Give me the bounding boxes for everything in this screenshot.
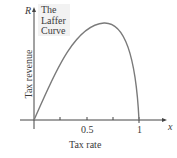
title-line-1: The — [41, 5, 70, 16]
chart-title-box: The Laffer Curve — [38, 4, 70, 36]
x-tick-label-0-5: 0.5 — [81, 125, 94, 135]
y-axis-label: Tax revenue — [23, 50, 34, 99]
x-axis-arrow-icon — [162, 118, 167, 122]
x-tick-label-1: 1 — [137, 125, 142, 135]
title-line-3: Curve — [41, 26, 70, 37]
y-axis-symbol: R — [25, 6, 31, 16]
laffer-curve — [34, 23, 139, 120]
x-axis-symbol: x — [168, 122, 172, 132]
y-axis-arrow-icon — [32, 7, 36, 12]
x-axis-label: Tax rate — [69, 140, 101, 150]
